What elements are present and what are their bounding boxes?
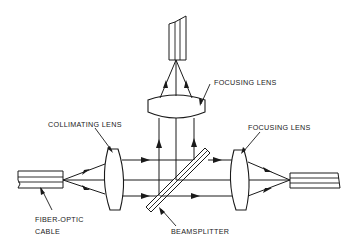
beamsplitter-optical-diagram: COLLIMATING LENS FOCUSING LENS FOCUSING …: [0, 0, 354, 248]
label-focusing-lens-top: FOCUSING LENS: [214, 78, 277, 87]
converging-rays-right: [248, 162, 290, 196]
diverging-rays: [63, 164, 105, 194]
label-beamsplitter: BEAMSPLITTER: [171, 227, 229, 236]
label-collimating-lens: COLLIMATING LENS: [48, 120, 122, 129]
focusing-lens-right: [230, 150, 249, 210]
input-fiber-cable: [18, 171, 63, 188]
collimating-lens: [104, 149, 123, 210]
focusing-lens-top: [148, 95, 205, 118]
label-focusing-lens-right: FOCUSING LENS: [248, 123, 311, 132]
output-fiber-right: [290, 173, 340, 188]
output-fiber-top: [169, 16, 186, 60]
converging-rays-top: [160, 60, 192, 98]
label-fiber-optic: FIBER-OPTIC: [35, 215, 84, 224]
label-cable: CABLE: [35, 227, 60, 236]
